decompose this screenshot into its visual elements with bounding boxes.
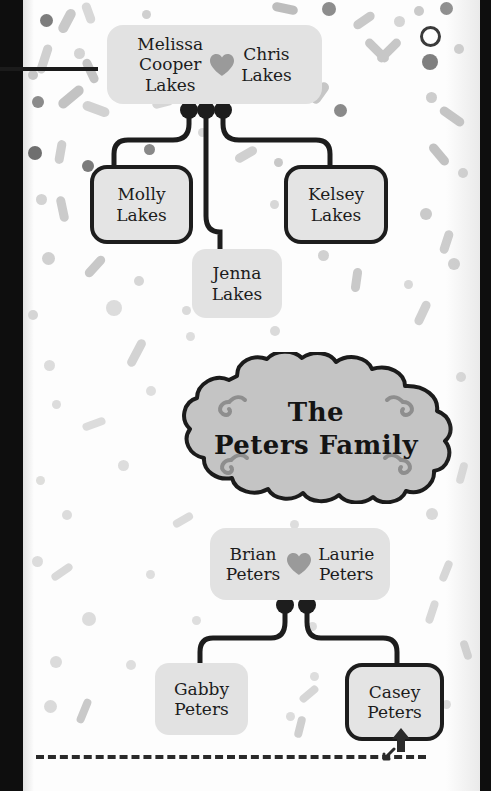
confetti-dot xyxy=(426,92,437,103)
name-line: Lakes xyxy=(241,65,292,85)
dashed-separator xyxy=(36,755,426,759)
confetti-bar xyxy=(298,684,320,704)
name-line: Jenna xyxy=(213,263,262,283)
confetti-dot xyxy=(146,570,155,579)
confetti-dot xyxy=(308,622,317,631)
confetti-dot xyxy=(420,208,432,220)
confetti-dot xyxy=(198,128,207,137)
confetti-bar xyxy=(81,416,106,432)
family-tree-page: Melissa Cooper Lakes Chris Lakes Molly L… xyxy=(22,0,480,791)
name-line: Peters xyxy=(367,702,421,722)
confetti-dot xyxy=(44,360,55,371)
person-chris-lakes[interactable]: Chris Lakes xyxy=(241,44,292,84)
confetti-bar xyxy=(83,254,107,279)
confetti-dot xyxy=(62,510,72,520)
couple-peters[interactable]: Brian Peters Laurie Peters xyxy=(210,528,390,600)
confetti-bar xyxy=(233,145,258,165)
confetti-dot xyxy=(146,386,156,396)
confetti-dot xyxy=(270,326,280,336)
person-brian-peters[interactable]: Brian Peters xyxy=(226,544,280,584)
confetti-dot xyxy=(50,656,62,668)
confetti-dot xyxy=(440,2,453,15)
confetti-dot xyxy=(44,700,57,713)
confetti-bar xyxy=(438,559,454,582)
confetti-bar xyxy=(75,697,92,724)
confetti-dot xyxy=(36,476,45,485)
name-line: Lakes xyxy=(212,284,263,304)
confetti-dot xyxy=(454,44,464,54)
confetti-dot xyxy=(126,660,136,670)
confetti-dot xyxy=(144,144,155,155)
name-line: Lakes xyxy=(116,205,167,225)
confetti-bar xyxy=(50,562,74,582)
confetti-bar xyxy=(459,639,473,660)
confetti-bar xyxy=(350,267,362,292)
node-molly-lakes[interactable]: Molly Lakes xyxy=(90,165,193,244)
node-jenna-lakes[interactable]: Jenna Lakes xyxy=(192,249,282,318)
confetti-dot xyxy=(118,460,129,471)
couple-lakes[interactable]: Melissa Cooper Lakes Chris Lakes xyxy=(107,25,322,104)
confetti-bar xyxy=(352,10,377,31)
title-banner-cloud: The Peters Family xyxy=(177,352,455,504)
confetti-bar xyxy=(424,599,439,624)
heart-icon xyxy=(286,552,312,576)
confetti-dot xyxy=(426,508,438,520)
confetti-bar xyxy=(54,139,67,164)
confetti-bar xyxy=(438,105,466,128)
confetti-ring xyxy=(420,26,441,47)
confetti-dot xyxy=(322,2,336,16)
confetti-dot xyxy=(334,104,347,117)
confetti-bar xyxy=(455,461,468,484)
person-melissa-cooper-lakes[interactable]: Melissa Cooper Lakes xyxy=(137,34,203,94)
right-bezel xyxy=(480,0,491,791)
confetti-dot xyxy=(318,250,329,261)
heart-icon xyxy=(209,53,235,77)
name-line: Chris xyxy=(243,44,289,64)
confetti-bar xyxy=(171,511,194,529)
confetti-bar xyxy=(293,715,306,738)
name-line: Peters xyxy=(226,564,280,584)
confetti-dot xyxy=(74,48,85,59)
confetti-dot xyxy=(106,300,122,316)
confetti-dot xyxy=(458,168,468,178)
confetti-dot xyxy=(82,612,96,626)
top-left-rule xyxy=(0,67,98,71)
confetti-bar xyxy=(271,1,298,15)
name-line: Lakes xyxy=(145,75,196,95)
confetti-bar xyxy=(55,195,69,222)
confetti-bar xyxy=(81,57,100,84)
node-gabby-peters[interactable]: Gabby Peters xyxy=(155,663,248,735)
confetti-dot xyxy=(192,616,201,625)
confetti-dot xyxy=(28,146,42,160)
confetti-bar xyxy=(81,1,97,25)
confetti-dot xyxy=(28,70,38,80)
name-line: Cooper xyxy=(139,54,202,74)
confetti-dot xyxy=(274,158,283,167)
confetti-bar xyxy=(81,100,111,119)
node-kelsey-lakes[interactable]: Kelsey Lakes xyxy=(284,165,388,244)
name-line: Molly xyxy=(117,184,165,204)
name-line: Brian xyxy=(229,544,276,564)
cloud-shape xyxy=(177,352,455,504)
confetti-dot xyxy=(42,252,55,265)
confetti-dot xyxy=(142,10,151,19)
confetti-dot xyxy=(186,332,195,341)
confetti-dot xyxy=(310,672,319,681)
confetti-bar xyxy=(56,7,77,35)
confetti-dot xyxy=(456,372,466,382)
confetti-dot xyxy=(28,310,38,320)
confetti-dot xyxy=(182,306,191,315)
confetti-bar xyxy=(413,299,432,326)
screenshot-canvas: Melissa Cooper Lakes Chris Lakes Molly L… xyxy=(0,0,491,791)
confetti-dot xyxy=(82,160,94,172)
person-laurie-peters[interactable]: Laurie Peters xyxy=(318,544,374,584)
name-line: Laurie xyxy=(318,544,374,564)
name-line: Lakes xyxy=(311,205,362,225)
confetti-dot xyxy=(32,96,44,108)
confetti-dot xyxy=(36,194,47,205)
confetti-dot xyxy=(448,258,460,270)
confetti-dot xyxy=(422,54,438,70)
name-line: Kelsey xyxy=(308,184,364,204)
name-line: Peters xyxy=(174,699,228,719)
confetti-dot xyxy=(394,16,405,27)
